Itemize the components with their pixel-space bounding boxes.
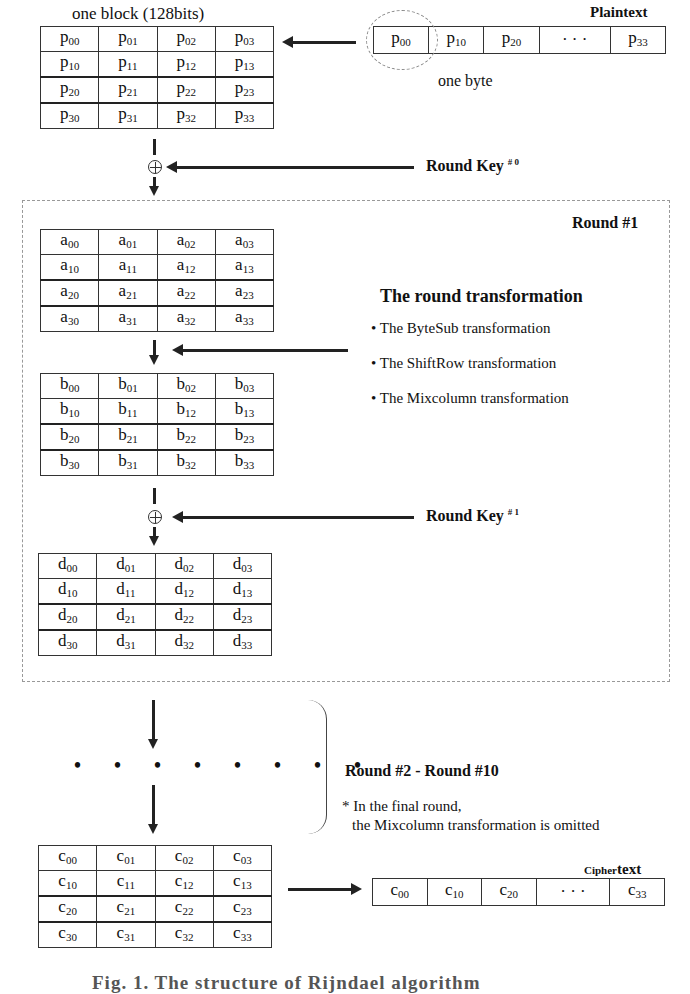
matrix-cell: c20: [39, 896, 97, 922]
matrix-row: d30d31d32d33: [39, 630, 272, 656]
step-shiftrow: • The ShiftRow transformation: [371, 355, 556, 372]
matrix-cell: p21: [99, 77, 157, 103]
state-matrix-d: d00d01d02d03d10d11d12d13d20d21d22d23d30d…: [38, 553, 272, 656]
matrix-cell: p30: [41, 103, 99, 129]
matrix-cell: d13: [213, 579, 271, 605]
matrix-row: d00d01d02d03: [39, 554, 272, 579]
matrix-cell: d01: [97, 554, 155, 579]
round-1-title: Round #1: [572, 214, 638, 232]
flow-line: [153, 139, 156, 155]
byte-cell: c00: [373, 879, 428, 906]
matrix-cell: d31: [97, 630, 155, 656]
matrix-cell: p33: [215, 103, 273, 129]
matrix-cell: p23: [215, 77, 273, 103]
matrix-cell: p32: [157, 103, 215, 129]
matrix-cell: p13: [215, 52, 273, 78]
matrix-cell: b31: [99, 450, 157, 476]
byte-cell: · · ·: [539, 27, 610, 54]
matrix-cell: b00: [41, 374, 99, 399]
matrix-cell: b33: [215, 450, 273, 476]
round-key-0-index: # 0: [508, 157, 519, 167]
matrix-row: b10b11b12b13: [41, 399, 274, 425]
matrix-row: c00c01c02c03: [39, 846, 272, 871]
matrix-row: c20c21c22c23: [39, 896, 272, 922]
matrix-cell: a03: [215, 230, 273, 255]
arrow-to-ciphertext: [288, 888, 352, 891]
rounds-2-10-label: Round #2 - Round #10: [345, 762, 499, 780]
matrix-cell: b01: [99, 374, 157, 399]
byte-cell: c33: [610, 879, 665, 906]
matrix-cell: c12: [155, 871, 213, 897]
matrix-row: b20b21b22b23: [41, 424, 274, 450]
matrix-row: a30a31a32a33: [41, 306, 274, 332]
ellipsis-dots: • • • • • • • •: [74, 754, 375, 777]
matrix-cell: b30: [41, 450, 99, 476]
matrix-cell: d12: [155, 579, 213, 605]
matrix-cell: d23: [213, 604, 271, 630]
matrix-row: d20d21d22d23: [39, 604, 272, 630]
matrix-cell: c01: [97, 846, 155, 871]
matrix-row: a20a21a22a23: [41, 280, 274, 306]
matrix-row: b00b01b02b03: [41, 374, 274, 399]
matrix-cell: b23: [215, 424, 273, 450]
ciphertext-matrix: c00c01c02c03c10c11c12c13c20c21c22c23c30c…: [38, 845, 272, 948]
round-key-0-text: Round Key: [426, 157, 504, 174]
matrix-cell: a13: [215, 255, 273, 281]
matrix-cell: p11: [99, 52, 157, 78]
matrix-cell: a22: [157, 280, 215, 306]
ciphertext-byte-strip: c00c10c20· · ·c33: [372, 878, 665, 906]
matrix-cell: c30: [39, 922, 97, 948]
matrix-cell: p31: [99, 103, 157, 129]
matrix-cell: b21: [99, 424, 157, 450]
matrix-cell: a00: [41, 230, 99, 255]
matrix-cell: c32: [155, 922, 213, 948]
matrix-cell: b22: [157, 424, 215, 450]
arrow-roundkey1: [182, 516, 414, 519]
arrow-plaintext-to-block: [292, 41, 356, 44]
matrix-cell: d00: [39, 554, 97, 579]
matrix-cell: c13: [213, 871, 271, 897]
matrix-row: d10d11d12d13: [39, 579, 272, 605]
matrix-cell: c00: [39, 846, 97, 871]
matrix-row: p30p31p32p33: [41, 103, 274, 129]
matrix-cell: p01: [99, 27, 157, 52]
matrix-row: b30b31b32b33: [41, 450, 274, 476]
final-round-note-1: * In the final round,: [342, 798, 462, 815]
byte-cell: c20: [482, 879, 537, 906]
arrow-down: [153, 177, 156, 187]
matrix-cell: d03: [213, 554, 271, 579]
matrix-cell: a21: [99, 280, 157, 306]
round-key-1-index: # 1: [508, 507, 519, 517]
matrix-cell: c31: [97, 922, 155, 948]
matrix-cell: a32: [157, 306, 215, 332]
round-key-1-text: Round Key: [426, 507, 504, 524]
one-byte-label: one byte: [438, 72, 493, 90]
byte-cell: c10: [427, 879, 482, 906]
arrow-roundkey0: [176, 166, 414, 169]
arrow-down: [153, 340, 156, 356]
matrix-cell: a31: [99, 306, 157, 332]
matrix-cell: c23: [213, 896, 271, 922]
matrix-cell: p10: [41, 52, 99, 78]
matrix-cell: b20: [41, 424, 99, 450]
matrix-cell: b11: [99, 399, 157, 425]
matrix-cell: p20: [41, 77, 99, 103]
matrix-cell: a33: [215, 306, 273, 332]
matrix-row: p20p21p22p23: [41, 77, 274, 103]
matrix-cell: d30: [39, 630, 97, 656]
round-key-0-label: Round Key # 0: [426, 157, 519, 175]
round-transformation-heading: The round transformation: [380, 286, 583, 307]
state-matrix-b: b00b01b02b03b10b11b12b13b20b21b22b23b30b…: [40, 373, 274, 476]
matrix-row: p10p11p12p13: [41, 52, 274, 78]
matrix-cell: d22: [155, 604, 213, 630]
step-mixcolumn: • The Mixcolumn transformation: [371, 390, 569, 407]
matrix-cell: b03: [215, 374, 273, 399]
matrix-cell: b12: [157, 399, 215, 425]
one-byte-highlight: [366, 10, 438, 70]
matrix-cell: c22: [155, 896, 213, 922]
matrix-cell: c02: [155, 846, 213, 871]
matrix-cell: a12: [157, 255, 215, 281]
ciphertext-label-text: text: [617, 861, 641, 877]
matrix-cell: b13: [215, 399, 273, 425]
matrix-cell: a23: [215, 280, 273, 306]
